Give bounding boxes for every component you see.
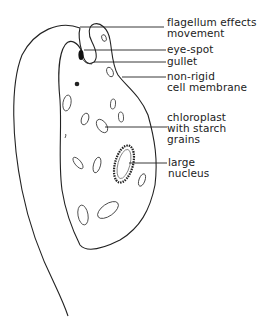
chloroplasts — [62, 34, 147, 226]
label-line: movement — [167, 28, 257, 39]
eye-spot — [78, 50, 83, 60]
label-line: nucleus — [168, 168, 209, 179]
label-cell-membrane: non-rigid cell membrane — [167, 71, 247, 93]
label-line: gullet — [167, 56, 197, 67]
granule — [75, 82, 80, 87]
label-eye-spot: eye-spot — [167, 44, 213, 55]
label-chloroplast: chloroplast with starch grains — [167, 112, 226, 145]
nucleus — [110, 143, 137, 184]
cell-membrane — [59, 24, 156, 250]
label-line: grains — [167, 134, 226, 145]
euglena-diagram — [0, 0, 259, 317]
flagellum — [14, 25, 80, 316]
label-line: eye-spot — [167, 44, 213, 55]
label-nucleus: large nucleus — [168, 157, 209, 179]
label-flagellum: flagellum effects movement — [167, 17, 257, 39]
label-line: cell membrane — [167, 82, 247, 93]
label-gullet: gullet — [167, 56, 197, 67]
